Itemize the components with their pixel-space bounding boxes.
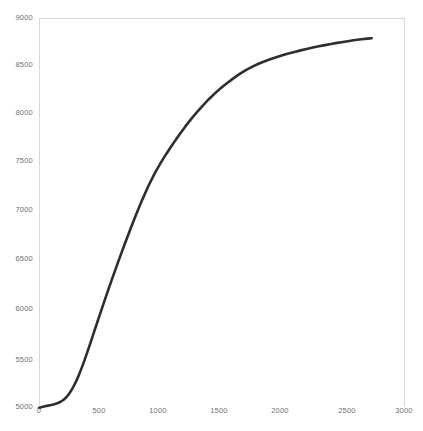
y-tick-label: 7000	[3, 206, 33, 214]
plot-frame	[39, 18, 404, 407]
x-tick-label: 500	[86, 407, 112, 415]
y-tick-label: 8000	[3, 109, 33, 117]
x-tick-label: 1000	[144, 407, 172, 415]
line-chart: 9000 8500 8000 7500 7000 6500 6000 5500 …	[0, 0, 423, 431]
y-tick-label: 5500	[3, 356, 33, 364]
x-tick-label: 0	[30, 407, 48, 415]
x-tick-label: 3000	[390, 407, 418, 415]
y-tick-label: 9000	[3, 14, 33, 22]
x-tick-label: 1500	[205, 407, 233, 415]
y-tick-label: 6500	[3, 255, 33, 263]
data-line-series-1	[39, 38, 372, 408]
y-tick-label: 6000	[3, 305, 33, 313]
y-tick-label: 8500	[3, 61, 33, 69]
x-tick-label: 2500	[333, 407, 361, 415]
x-tick-label: 2000	[266, 407, 294, 415]
y-tick-label: 7500	[3, 157, 33, 165]
y-tick-label: 5000	[3, 403, 33, 411]
plot-area	[0, 0, 423, 431]
